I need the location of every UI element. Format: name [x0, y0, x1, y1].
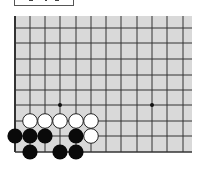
- white-stone[interactable]: [23, 114, 38, 129]
- black-stone[interactable]: [22, 128, 37, 143]
- white-stone[interactable]: [38, 114, 53, 129]
- white-stone[interactable]: [53, 114, 68, 129]
- star-point: [150, 103, 154, 107]
- black-stone[interactable]: [68, 128, 83, 143]
- black-stone[interactable]: [52, 144, 67, 159]
- white-stone[interactable]: [84, 129, 99, 144]
- white-stone[interactable]: [69, 114, 84, 129]
- black-stone[interactable]: [7, 128, 22, 143]
- black-stone[interactable]: [37, 128, 52, 143]
- black-stone[interactable]: [22, 144, 37, 159]
- black-stone[interactable]: [68, 144, 83, 159]
- star-point: [58, 103, 62, 107]
- white-stone[interactable]: [84, 114, 99, 129]
- go-board-grid: [0, 0, 202, 171]
